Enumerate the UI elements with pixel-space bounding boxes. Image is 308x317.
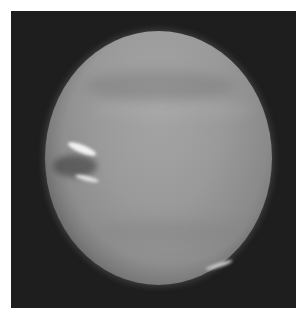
limb-darkening (45, 31, 272, 285)
planet-neptune (45, 31, 272, 285)
photo-frame (11, 11, 296, 308)
